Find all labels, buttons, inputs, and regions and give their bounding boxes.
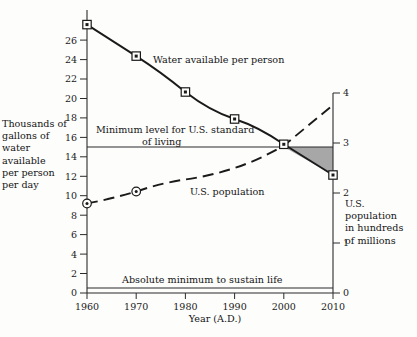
x-tick-label: 2010 — [321, 301, 345, 312]
annotation-population-label: U.S. population — [190, 186, 265, 197]
left-tick-label: 4 — [71, 249, 77, 260]
right-axis-title-line3: of millions — [345, 235, 417, 247]
annotation-min-standard-line1: Minimum level for U.S. standard — [96, 124, 254, 135]
left-tick-label: 26 — [65, 35, 77, 46]
left-tick-label: 0 — [71, 287, 77, 298]
x-axis-title: Year (A.D.) — [140, 313, 290, 325]
x-tick-label: 1990 — [223, 301, 247, 312]
left-tick-label: 8 — [71, 210, 77, 221]
left-tick-label: 20 — [65, 93, 77, 104]
series-line-water-available — [87, 25, 333, 175]
x-tick-label: 2000 — [272, 301, 296, 312]
left-axis-title: Thousands of gallons of water available … — [2, 118, 74, 191]
annotation-min-standard-line2: of living — [142, 136, 181, 147]
right-axis-ticks: 0 1 2 3 4 — [333, 87, 349, 298]
left-axis-title-line1: Thousands of — [2, 118, 74, 130]
right-axis-title-line2: in hundreds — [345, 222, 417, 234]
right-tick-label: 4 — [343, 87, 349, 98]
chart-page: 0 2 4 6 8 10 12 14 16 18 20 22 24 — [0, 0, 417, 337]
left-tick-label: 24 — [65, 54, 77, 65]
right-tick-label: 2 — [343, 187, 349, 198]
right-tick-label: 0 — [343, 287, 349, 298]
annotation-min-life-label: Absolute minimum to sustain life — [121, 274, 283, 285]
left-tick-label: 10 — [65, 190, 77, 201]
left-axis-title-line4: per person — [2, 167, 74, 179]
right-axis-title-line1: U.S. population — [345, 198, 417, 222]
left-axis-title-line3: water available — [2, 142, 74, 166]
left-tick-label: 2 — [71, 268, 77, 279]
annotation-water-label: Water available per person — [153, 54, 284, 65]
right-axis-title: U.S. population in hundreds of millions — [345, 198, 417, 247]
x-tick-label: 1970 — [124, 301, 148, 312]
left-axis-title-line2: gallons of — [2, 130, 74, 142]
left-tick-label: 6 — [71, 229, 77, 240]
right-tick-label: 3 — [343, 137, 349, 148]
x-tick-label: 1960 — [75, 301, 99, 312]
left-tick-label: 22 — [65, 73, 77, 84]
left-axis-title-line5: per day — [2, 179, 74, 191]
x-axis-ticks: 1960 1970 1980 1990 2000 2010 — [75, 293, 345, 312]
x-tick-label: 1980 — [173, 301, 197, 312]
